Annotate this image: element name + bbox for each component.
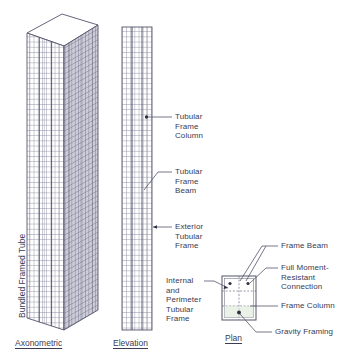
diagram-canvas: Bundled Framed Tube Axonometric Elevatio… <box>0 0 357 359</box>
label-full-moment-resistant-connection: Full Moment- Resistant Connection <box>281 263 329 292</box>
column-node-marker <box>145 115 148 118</box>
vertical-caption-bundled-framed-tube: Bundled Framed Tube <box>17 234 27 318</box>
exterior-frame-arrow <box>153 225 157 229</box>
label-gravity-framing: Gravity Framing <box>275 327 333 337</box>
label-frame-column: Frame Column <box>281 301 335 311</box>
label-frame-beam: Frame Beam <box>281 241 328 251</box>
caption-elevation: Elevation <box>113 338 148 348</box>
label-exterior-tubular-frame: Exterior Tubular Frame <box>175 222 203 251</box>
axonometric-front-face <box>27 33 64 330</box>
label-internal-and-perimeter-tubular-frame: Internal and Perimeter Tubular Frame <box>166 276 201 324</box>
elevation-view <box>122 27 152 330</box>
caption-axonometric: Axonometric <box>15 338 62 348</box>
axonometric-side-face <box>64 25 98 330</box>
caption-plan: Plan <box>225 333 242 343</box>
label-tubular-frame-beam: Tubular Frame Beam <box>175 167 202 196</box>
label-tubular-frame-column: Tubular Frame Column <box>175 112 203 141</box>
axonometric-view <box>27 14 98 330</box>
